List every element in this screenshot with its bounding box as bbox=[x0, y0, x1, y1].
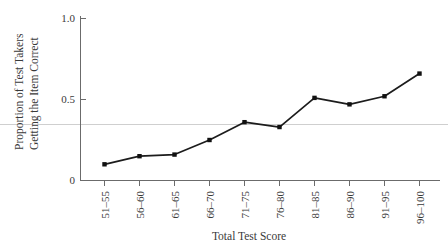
data-point-9 bbox=[417, 71, 421, 75]
x-category-label-8: 91–95 bbox=[379, 191, 391, 219]
x-category-label-0: 51–55 bbox=[99, 191, 111, 219]
chart-screenshot: 1.0 0.5 0 Proportion of Test Takers Gett… bbox=[0, 0, 448, 249]
y-axis-title-line1: Proportion of Test Takers bbox=[13, 33, 26, 150]
data-point-4 bbox=[242, 120, 246, 124]
x-category-label-9: 96–100 bbox=[414, 191, 426, 225]
x-category-label-1: 56–60 bbox=[134, 191, 146, 219]
line-chart: 1.0 0.5 0 Proportion of Test Takers Gett… bbox=[0, 0, 448, 249]
y-axis-ticks bbox=[81, 19, 87, 181]
y-tick-label-0.5: 0.5 bbox=[61, 93, 75, 105]
x-category-label-5: 76–80 bbox=[274, 191, 286, 219]
x-axis-title: Total Test Score bbox=[212, 230, 286, 242]
data-point-7 bbox=[347, 102, 351, 106]
y-tick-label-0: 0 bbox=[70, 174, 76, 186]
series-markers bbox=[102, 71, 421, 166]
x-category-label-6: 81–85 bbox=[309, 191, 321, 219]
data-point-2 bbox=[172, 152, 176, 156]
data-point-8 bbox=[382, 94, 386, 98]
x-axis-ticks bbox=[105, 181, 420, 187]
x-axis-category-labels: 51–55 56–60 61–65 66–70 71–75 76–80 81–8… bbox=[99, 191, 426, 225]
y-axis-title-line2: Getting the Item Correct bbox=[28, 36, 41, 150]
y-axis-title: Proportion of Test Takers Getting the It… bbox=[13, 33, 41, 150]
data-point-6 bbox=[312, 96, 316, 100]
x-category-label-4: 71–75 bbox=[239, 191, 251, 219]
data-point-0 bbox=[102, 162, 106, 166]
y-axis-tick-labels: 1.0 0.5 0 bbox=[61, 12, 75, 186]
x-category-label-2: 61–65 bbox=[169, 191, 181, 219]
data-point-5 bbox=[277, 125, 281, 129]
series-line bbox=[105, 74, 420, 165]
x-category-label-3: 66–70 bbox=[204, 191, 216, 219]
y-tick-label-1.0: 1.0 bbox=[61, 12, 75, 24]
data-point-3 bbox=[207, 138, 211, 142]
data-point-1 bbox=[137, 154, 141, 158]
x-category-label-7: 86–90 bbox=[344, 191, 356, 219]
